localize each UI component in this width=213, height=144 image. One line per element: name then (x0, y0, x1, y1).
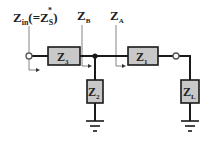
component-z1: Z1 (128, 47, 158, 66)
label-zb: ZB (77, 8, 91, 25)
svg-text:ZA: ZA (110, 8, 124, 25)
component-zl: ZL (181, 80, 199, 103)
za-arrow-icon (116, 64, 126, 68)
ground-icon (181, 121, 199, 131)
svg-text:ZB: ZB (77, 8, 91, 25)
zin-arrow-icon (29, 60, 40, 72)
circuit-diagram: Zin(=ZS) * ZB ZA Z3 Z1 (0, 0, 213, 144)
ground-icon (86, 121, 104, 131)
input-terminal-icon (26, 53, 32, 59)
component-z2: Z2 (87, 80, 103, 103)
conjugate-star: * (48, 6, 52, 15)
component-z3: Z3 (48, 47, 80, 66)
output-terminal-icon (173, 53, 179, 59)
wire-load (179, 56, 190, 80)
zb-arrow-icon (82, 64, 92, 68)
label-za: ZA (110, 8, 124, 25)
label-zin: Zin(=ZS) * (13, 6, 58, 27)
